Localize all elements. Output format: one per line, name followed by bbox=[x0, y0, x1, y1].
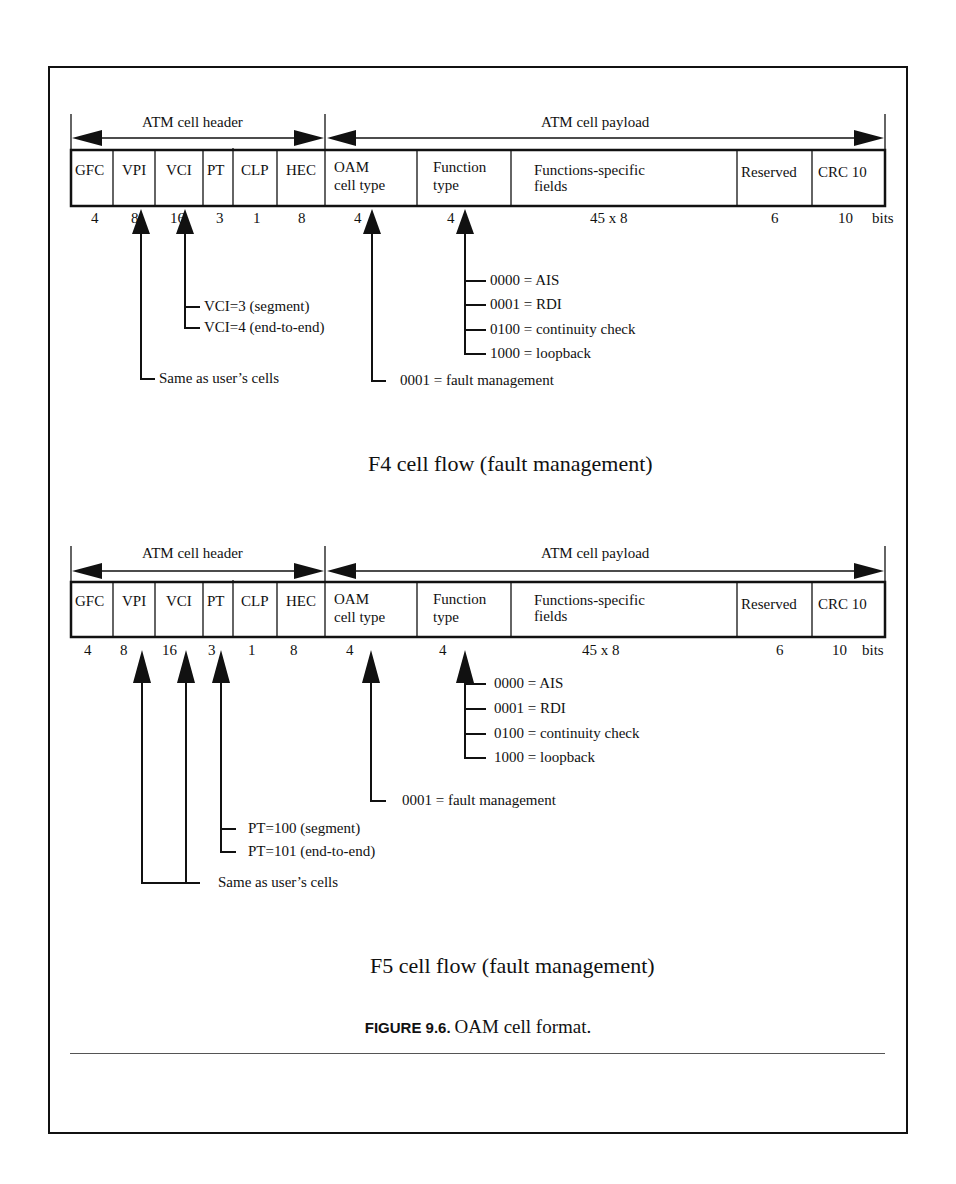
oam-cell-type-annotation: 0001 = fault management bbox=[400, 372, 554, 389]
function-type-loopback: 1000 = loopback bbox=[494, 749, 595, 766]
field-oam-line2: cell type bbox=[334, 177, 385, 194]
header-span-label: ATM cell header bbox=[142, 545, 243, 562]
function-type-rdi: 0001 = RDI bbox=[490, 296, 562, 313]
payload-span-label: ATM cell payload bbox=[541, 114, 649, 131]
field-clp: CLP bbox=[241, 593, 269, 610]
payload-span-label: ATM cell payload bbox=[541, 545, 649, 562]
bits-function-type: 4 bbox=[439, 642, 447, 659]
field-functions-specific: Functions-specific bbox=[534, 592, 645, 609]
vci-annotation-segment: VCI=3 (segment) bbox=[204, 298, 310, 315]
bits-pt: 3 bbox=[216, 210, 224, 227]
function-type-continuity-check: 0100 = continuity check bbox=[490, 321, 636, 338]
bits-functions-specific: 45 x 8 bbox=[582, 642, 620, 659]
f4-diagram bbox=[71, 114, 885, 381]
bits-functions-specific: 45 x 8 bbox=[590, 210, 628, 227]
pt-annotation-segment: PT=100 (segment) bbox=[248, 820, 360, 837]
field-vpi: VPI bbox=[122, 593, 146, 610]
arrow-right-icon bbox=[854, 563, 884, 579]
field-vpi: VPI bbox=[122, 162, 146, 179]
field-hec: HEC bbox=[286, 162, 316, 179]
arrow-left-icon bbox=[327, 563, 356, 579]
function-type-ais: 0000 = AIS bbox=[494, 675, 563, 692]
oam-cell-type-annotation: 0001 = fault management bbox=[402, 792, 556, 809]
caption-divider bbox=[70, 1053, 885, 1054]
bits-vpi: 8 bbox=[120, 642, 128, 659]
function-type-rdi: 0001 = RDI bbox=[494, 700, 566, 717]
field-functions-specific-line2: fields bbox=[534, 608, 567, 625]
bits-clp: 1 bbox=[253, 210, 261, 227]
field-pt: PT bbox=[207, 593, 225, 610]
field-function-type: Function bbox=[433, 159, 486, 176]
arrow-left-icon bbox=[72, 130, 102, 146]
f5-title: F5 cell flow (fault management) bbox=[370, 953, 655, 979]
bits-vci: 16 bbox=[170, 210, 185, 227]
caption-label: FIGURE 9.6. bbox=[365, 1019, 451, 1036]
bits-vpi: 8 bbox=[131, 210, 139, 227]
field-vci: VCI bbox=[166, 162, 192, 179]
vpi-vci-annotation: Same as user’s cells bbox=[218, 874, 338, 891]
field-functions-specific-line2: fields bbox=[534, 178, 567, 195]
field-reserved: Reserved bbox=[741, 164, 797, 181]
header-span-label: ATM cell header bbox=[142, 114, 243, 131]
field-hec: HEC bbox=[286, 593, 316, 610]
vpi-annotation: Same as user’s cells bbox=[159, 370, 279, 387]
bits-reserved: 6 bbox=[771, 210, 779, 227]
bits-unit: bits bbox=[862, 642, 884, 659]
field-gfc: GFC bbox=[75, 162, 104, 179]
arrow-left-icon bbox=[72, 563, 102, 579]
bits-pt: 3 bbox=[208, 642, 216, 659]
field-function-type: Function bbox=[433, 591, 486, 608]
bits-vci: 16 bbox=[162, 642, 177, 659]
field-functions-specific: Functions-specific bbox=[534, 162, 645, 179]
field-gfc: GFC bbox=[75, 593, 104, 610]
field-vci: VCI bbox=[166, 593, 192, 610]
function-type-continuity-check: 0100 = continuity check bbox=[494, 725, 640, 742]
bits-gfc: 4 bbox=[84, 642, 92, 659]
bits-crc10: 10 bbox=[832, 642, 847, 659]
bits-reserved: 6 bbox=[776, 642, 784, 659]
function-type-ais: 0000 = AIS bbox=[490, 272, 559, 289]
f4-title: F4 cell flow (fault management) bbox=[368, 451, 653, 477]
field-oam-line2: cell type bbox=[334, 609, 385, 626]
vci-annotation-end-to-end: VCI=4 (end-to-end) bbox=[204, 319, 325, 336]
arrow-right-icon bbox=[854, 130, 884, 146]
field-reserved: Reserved bbox=[741, 596, 797, 613]
field-function-type-line2: type bbox=[433, 609, 459, 626]
field-function-type-line2: type bbox=[433, 177, 459, 194]
field-crc10: CRC 10 bbox=[818, 164, 867, 181]
arrow-right-icon bbox=[294, 130, 324, 146]
field-clp: CLP bbox=[241, 162, 269, 179]
bits-oam: 4 bbox=[346, 642, 354, 659]
field-oam: OAM bbox=[334, 159, 369, 176]
bits-clp: 1 bbox=[248, 642, 256, 659]
field-crc10: CRC 10 bbox=[818, 596, 867, 613]
field-oam: OAM bbox=[334, 591, 369, 608]
field-pt: PT bbox=[207, 162, 225, 179]
bits-oam: 4 bbox=[354, 210, 362, 227]
bits-function-type: 4 bbox=[447, 210, 455, 227]
bits-hec: 8 bbox=[290, 642, 298, 659]
pt-annotation-end-to-end: PT=101 (end-to-end) bbox=[248, 843, 375, 860]
arrow-right-icon bbox=[294, 563, 324, 579]
bits-crc10: 10 bbox=[838, 210, 853, 227]
function-type-loopback: 1000 = loopback bbox=[490, 345, 591, 362]
bits-gfc: 4 bbox=[91, 210, 99, 227]
arrow-left-icon bbox=[327, 130, 356, 146]
bits-unit: bits bbox=[872, 210, 894, 227]
figure-caption: FIGURE 9.6. OAM cell format. bbox=[0, 1016, 956, 1038]
caption-text: OAM cell format. bbox=[455, 1016, 592, 1037]
bits-hec: 8 bbox=[298, 210, 306, 227]
